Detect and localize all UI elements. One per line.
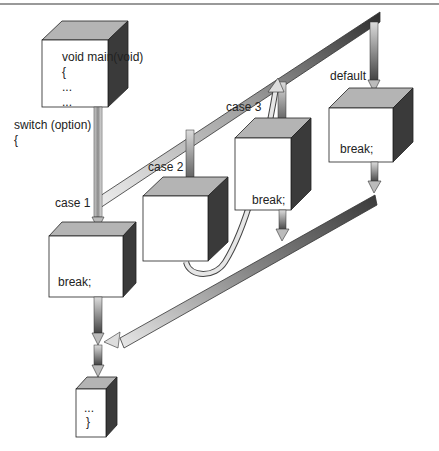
case3-break-pipe [279,210,286,230]
case3-break: break; [252,193,285,207]
arrow-collector-icon [104,332,120,348]
default-label: default [330,69,366,83]
arrow-case1-break-icon [92,333,104,345]
case2-label: case 2 [148,160,183,174]
default-break: break; [340,142,373,156]
end-pipe [94,345,102,365]
main-code-line-1: void main(void) [62,50,143,65]
end-block [76,377,117,437]
main-code-line-2: { [62,65,66,80]
case3-label: case 3 [226,100,261,114]
default-break-pipe [371,162,378,182]
main-code-line-3: ... [62,80,72,95]
main-code-line-4: ... [62,95,72,110]
case2-block [143,177,228,261]
arrow-default-break-icon [368,181,381,193]
switch-label: switch (option) [14,118,91,132]
case1-break: break; [58,275,91,289]
arrow-case3-break-icon [276,229,289,241]
arrow-end-icon [92,365,104,377]
main-to-case1-pipe [94,107,102,217]
default-pipe [370,22,378,80]
end-code-line-2: } [86,415,90,430]
case1-break-pipe [94,297,102,333]
end-code-line-1: ... [84,401,94,416]
switch-brace: { [14,133,18,147]
case1-label: case 1 [55,196,90,210]
